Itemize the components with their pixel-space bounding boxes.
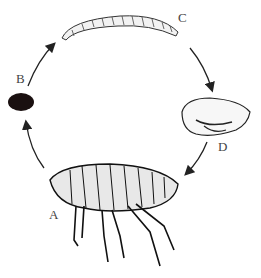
label-d: D [218,140,227,153]
arrow-c-to-d [190,48,212,90]
label-b: B [16,72,25,85]
arrow-a-to-b [26,122,44,168]
arrow-d-to-a [186,142,207,174]
pupa-illustration [182,98,250,135]
egg-illustration [8,93,34,111]
arrow-b-to-c [28,44,54,86]
larva-illustration [62,16,178,40]
flea-life-cycle-diagram: B C D A [0,0,261,278]
label-c: C [178,11,187,24]
adult-flea-illustration [50,164,178,266]
label-a: A [49,208,58,221]
